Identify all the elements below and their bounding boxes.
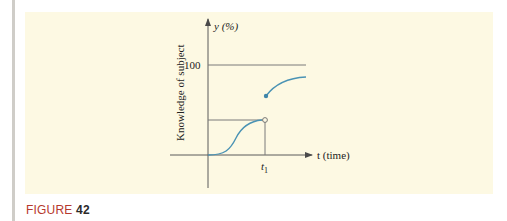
- filled-dot-marker: [264, 94, 268, 98]
- caption-word: FIGURE: [26, 203, 73, 217]
- x-tick-t1-subscript: 1: [264, 166, 268, 175]
- knowledge-graph: y (%) 100 t (time) Knowledge of subject …: [0, 0, 507, 221]
- curve-after-t1: [266, 77, 306, 96]
- y-axis-title: Knowledge of subject: [174, 44, 186, 141]
- y-tick-100: 100: [184, 59, 201, 71]
- figure-caption: FIGURE 42: [26, 203, 90, 217]
- caption-number: 42: [76, 203, 90, 217]
- curve-before-t1: [208, 120, 262, 155]
- x-tick-t1: t1: [261, 160, 268, 175]
- y-unit-label: y (%): [213, 20, 238, 33]
- open-circle-marker: [263, 118, 268, 123]
- x-axis-label: t (time): [317, 149, 350, 162]
